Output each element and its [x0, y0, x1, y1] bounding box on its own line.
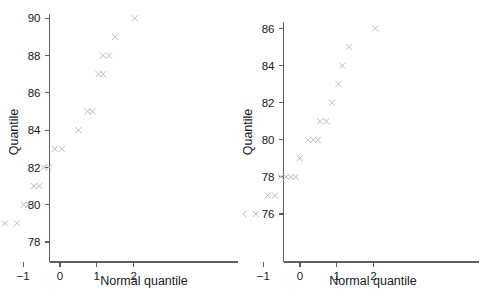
data-point-marker: [100, 53, 106, 59]
y-axis-tick-label: 80: [28, 199, 41, 211]
y-axis-tick-label: 82: [262, 97, 275, 109]
x-axis-title: Normal quantile: [329, 274, 417, 288]
data-point-marker: [372, 26, 378, 32]
data-point-marker: [265, 192, 271, 198]
data-point-marker: [52, 146, 58, 152]
scatter-plot-left: 78808284868890−2−1012Normal quantileQuan…: [0, 0, 243, 299]
data-point-marker: [75, 127, 81, 133]
y-axis-tick-label: 90: [28, 12, 41, 24]
x-axis-tick-label: −1: [257, 270, 270, 282]
y-axis-tick-label: 88: [28, 50, 41, 62]
y-axis-tick-label: 84: [262, 60, 275, 72]
x-axis-title: Normal quantile: [100, 274, 188, 288]
data-point-marker: [339, 63, 345, 69]
y-axis-tick-label: 82: [28, 162, 41, 174]
data-point-marker: [100, 71, 106, 77]
qq-plot-figure: 78808284868890−2−1012Normal quantileQuan…: [0, 0, 485, 299]
x-axis-tick-label: 0: [297, 270, 303, 282]
y-axis-tick-label: 86: [28, 87, 41, 99]
data-point-marker: [253, 211, 259, 217]
scatter-plot-right: 767880828486−2−1012Normal quantileQuanti…: [243, 0, 485, 299]
data-point-marker: [31, 183, 37, 189]
data-point-marker: [315, 137, 321, 143]
data-point-marker: [132, 15, 138, 21]
y-axis-tick-label: 84: [28, 124, 41, 136]
chart-panel-right: 767880828486−2−1012Normal quantileQuanti…: [243, 0, 485, 299]
y-axis-tick-label: 76: [262, 208, 275, 220]
y-axis-title: Quantile: [7, 109, 21, 156]
x-axis-tick-label: 1: [94, 270, 100, 282]
data-point-marker: [112, 34, 118, 40]
data-point-marker: [89, 108, 95, 114]
y-axis-tick-label: 78: [28, 236, 41, 248]
data-point-marker: [305, 137, 311, 143]
data-point-marker: [272, 192, 278, 198]
y-axis-title: Quantile: [243, 109, 255, 156]
data-point-marker: [317, 118, 323, 124]
data-point-marker: [336, 81, 342, 87]
data-point-marker: [106, 53, 112, 59]
data-point-marker: [297, 155, 303, 161]
data-point-marker: [243, 211, 246, 217]
data-point-marker: [323, 118, 329, 124]
x-axis-tick-label: 0: [57, 270, 63, 282]
data-point-marker: [293, 174, 299, 180]
data-point-marker: [36, 183, 42, 189]
x-axis-tick-label: −1: [17, 270, 30, 282]
y-axis-tick-label: 80: [262, 134, 275, 146]
data-point-marker: [59, 146, 65, 152]
y-axis-tick-label: 86: [262, 23, 275, 35]
data-point-marker: [329, 100, 335, 106]
y-axis-tick-label: 78: [262, 171, 275, 183]
chart-panel-left: 78808284868890−2−1012Normal quantileQuan…: [0, 0, 243, 299]
data-point-marker: [2, 220, 8, 226]
data-point-marker: [14, 220, 20, 226]
data-point-marker: [346, 44, 352, 50]
